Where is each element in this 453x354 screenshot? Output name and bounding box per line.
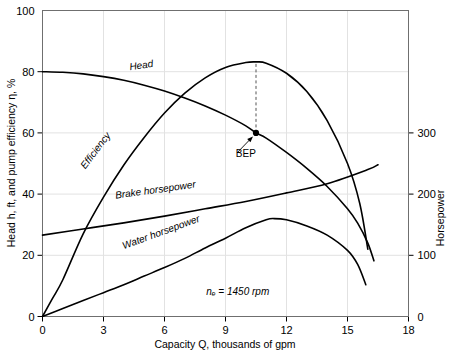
bep-annotation-label: BEP: [236, 148, 256, 159]
curve-label-water-horsepower: Water horsepower: [121, 213, 202, 251]
x-tick-label: 12: [280, 324, 292, 336]
y-tick-label: 0: [28, 311, 34, 323]
y2-tick-label: 300: [418, 127, 436, 139]
bep-point-marker: [253, 130, 259, 136]
y-axis-title: Head h, ft, and pump efficiency η, %: [5, 79, 17, 248]
y-tick-label: 100: [16, 5, 34, 17]
curve-efficiency: [43, 62, 368, 317]
x-tick-label: 15: [341, 324, 353, 336]
grid-lines: [43, 11, 409, 317]
x-tick-label: 3: [100, 324, 106, 336]
curve-label-head: Head: [129, 58, 155, 72]
y-tick-label: 80: [22, 66, 34, 78]
x-axis-title: Capacity Q, thousands of gpm: [154, 338, 295, 350]
rotational-speed-annotation: nₑ = 1450 rpm: [206, 286, 269, 297]
curve-head: [43, 72, 374, 261]
x-tick-label: 0: [39, 324, 45, 336]
curve-labels: HeadEfficiencyBrake horsepowerWater hors…: [78, 58, 202, 251]
data-curves: [43, 62, 379, 317]
curve-water-horsepower: [43, 219, 366, 317]
curve-brake-horsepower: [43, 165, 379, 235]
x-tick-label: 6: [161, 324, 167, 336]
y2-axis-title: Horsepower: [434, 189, 446, 246]
pump-performance-chart: HeadEfficiencyBrake horsepowerWater hors…: [0, 0, 453, 354]
curve-label-efficiency: Efficiency: [78, 129, 113, 171]
bep-marker-group: [237, 62, 259, 153]
y-tick-label: 20: [22, 249, 34, 261]
y2-tick-label: 100: [418, 249, 436, 261]
x-tick-label: 18: [402, 324, 414, 336]
y-tick-label: 60: [22, 127, 34, 139]
y2-tick-label: 0: [418, 311, 424, 323]
chart-canvas: HeadEfficiencyBrake horsepowerWater hors…: [0, 0, 453, 354]
curve-label-brake-horsepower: Brake horsepower: [114, 178, 197, 200]
x-tick-label: 9: [222, 324, 228, 336]
y-tick-label: 40: [22, 188, 34, 200]
